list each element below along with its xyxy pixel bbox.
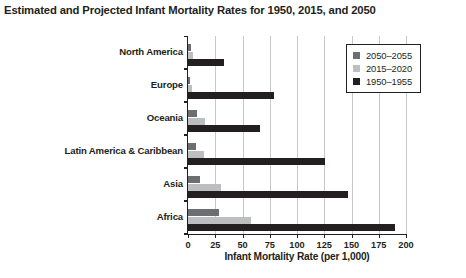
y-axis-category-label: Africa — [157, 211, 183, 222]
bar — [188, 176, 200, 183]
legend-item[interactable]: 2015–2020 — [353, 62, 412, 75]
legend-label: 2015–2020 — [366, 63, 412, 74]
y-axis-category-label: North America — [119, 46, 183, 57]
legend-item[interactable]: 2050–2055 — [353, 49, 412, 62]
x-axis-tick — [297, 234, 298, 238]
infant-mortality-bar-chart: Estimated and Projected Infant Mortality… — [0, 0, 466, 278]
y-axis-category-label: Asia — [163, 178, 183, 189]
bar — [188, 92, 274, 99]
bar — [188, 209, 219, 216]
bar — [188, 77, 190, 84]
x-axis-title: Infant Mortality Rate (per 1,000) — [188, 251, 406, 262]
x-axis-tick — [379, 234, 380, 238]
bar — [188, 191, 348, 198]
legend-label: 1950–1955 — [366, 76, 412, 87]
legend-swatch-icon — [353, 52, 360, 59]
bar — [188, 118, 205, 125]
x-axis-tick — [270, 234, 271, 238]
x-axis-tick-label: 50 — [237, 240, 247, 250]
y-axis-tick — [184, 233, 188, 234]
x-axis-tick — [324, 234, 325, 238]
bar — [188, 85, 192, 92]
legend-label: 2050–2055 — [366, 50, 412, 61]
y-axis-category-label: Latin America & Caribbean — [64, 145, 183, 156]
y-axis-category-label: Europe — [151, 79, 183, 90]
x-axis-tick — [406, 234, 407, 238]
x-axis-tick-label: 100 — [289, 240, 304, 250]
bar — [188, 151, 204, 158]
bar — [188, 217, 251, 224]
x-axis-tick-label: 175 — [371, 240, 386, 250]
chart-title: Estimated and Projected Infant Mortality… — [4, 4, 376, 16]
bar — [188, 224, 395, 231]
bar — [188, 59, 224, 66]
bar — [188, 184, 221, 191]
bar — [188, 143, 196, 150]
x-axis-tick-label: 25 — [210, 240, 220, 250]
legend-swatch-icon — [353, 65, 360, 72]
bar-group — [188, 201, 406, 234]
legend-item[interactable]: 1950–1955 — [353, 75, 412, 88]
bar — [188, 125, 260, 132]
bar — [188, 52, 193, 59]
y-axis-tick — [184, 36, 188, 37]
bar — [188, 44, 191, 51]
x-axis-tick — [188, 234, 189, 238]
x-axis-tick — [215, 234, 216, 238]
y-axis-category-label: Oceania — [147, 112, 183, 123]
x-axis-tick — [243, 234, 244, 238]
legend-swatch-icon — [353, 78, 360, 85]
x-axis-tick — [352, 234, 353, 238]
x-axis-tick-label: 0 — [185, 240, 190, 250]
bar-group — [188, 102, 406, 135]
x-axis-tick-label: 125 — [317, 240, 332, 250]
chart-legend: 2050–20552015–20201950–1955 — [346, 44, 421, 93]
x-axis-tick-label: 75 — [265, 240, 275, 250]
bar-group — [188, 135, 406, 168]
bar — [188, 110, 197, 117]
bar — [188, 158, 325, 165]
x-axis-tick-label: 200 — [398, 240, 413, 250]
x-axis-tick-label: 150 — [344, 240, 359, 250]
bar-group — [188, 168, 406, 201]
